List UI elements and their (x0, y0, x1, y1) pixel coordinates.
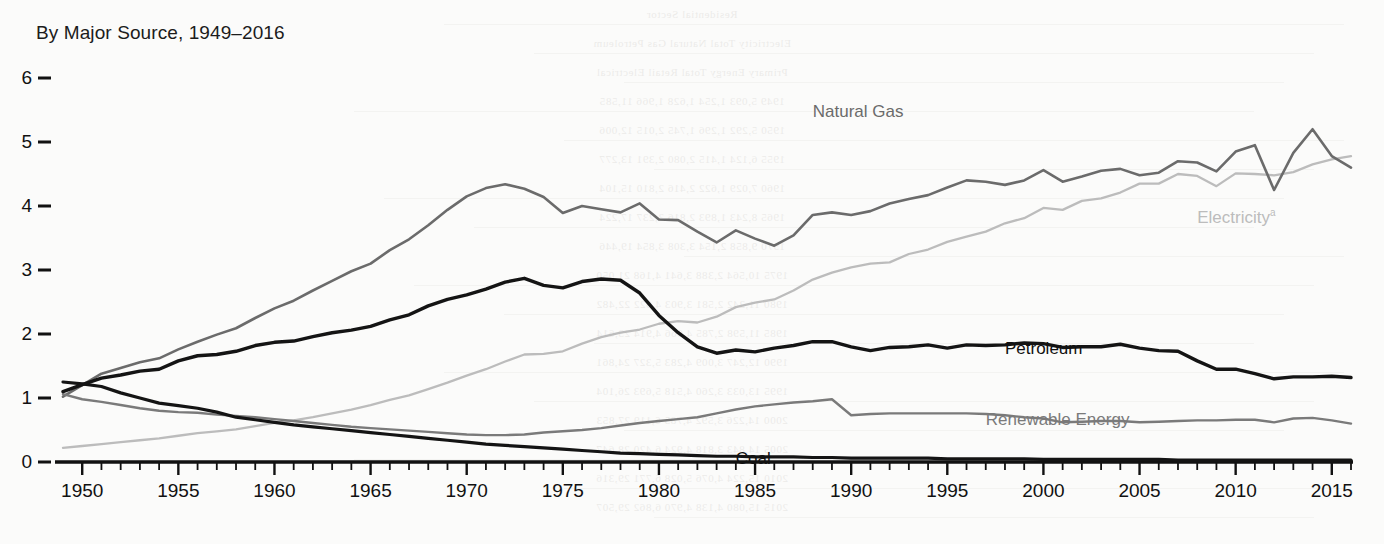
series-label-text: Coal (736, 449, 771, 468)
y-axis-tick-label: 3 (6, 259, 32, 281)
series-line (63, 278, 1351, 391)
x-axis-tick-label: 1960 (253, 480, 295, 502)
y-axis-tick-mark (38, 397, 51, 400)
x-axis-tick-label: 1970 (446, 480, 488, 502)
x-axis-tick-label: 1955 (157, 480, 199, 502)
x-axis-tick-label: 1950 (61, 480, 103, 502)
x-axis-tick-label: 2010 (1215, 480, 1257, 502)
y-axis-tick-label: 1 (6, 387, 32, 409)
series-label-text: Electricity (1197, 208, 1270, 227)
x-axis-tick-label: 1985 (734, 480, 776, 502)
y-axis-tick-label: 5 (6, 131, 32, 153)
series-label-footnote-marker: a (1270, 207, 1276, 218)
x-axis-tick-label: 1965 (349, 480, 391, 502)
y-axis-tick-mark (38, 333, 51, 336)
y-axis-tick-mark (38, 269, 51, 272)
y-axis-tick-label: 4 (6, 195, 32, 217)
series-label-text: Natural Gas (813, 102, 904, 121)
series-label: Electricitya (1197, 207, 1275, 228)
series-line (63, 394, 1351, 435)
chart-page: Residential SectorElectricity Total Natu… (0, 0, 1384, 544)
series-label-text: Renewable Energy (986, 410, 1130, 429)
x-axis-tick-label: 1995 (926, 480, 968, 502)
line-chart-plot: 0123456195019551960196519701975198019851… (0, 0, 1384, 544)
chart-svg (0, 0, 1384, 544)
y-axis-tick-label: 6 (6, 67, 32, 89)
series-label: Petroleum (1005, 339, 1082, 359)
y-axis-tick-mark (38, 77, 51, 80)
x-axis-tick-label: 2005 (1118, 480, 1160, 502)
x-axis-tick-label: 1990 (830, 480, 872, 502)
series-line (63, 129, 1351, 397)
y-axis-tick-label: 0 (6, 451, 32, 473)
x-axis-tick-label: 2015 (1311, 480, 1353, 502)
x-axis-tick-label: 1980 (638, 480, 680, 502)
series-label: Renewable Energy (986, 410, 1130, 430)
y-axis-tick-mark (38, 205, 51, 208)
series-label-text: Petroleum (1005, 339, 1082, 358)
x-axis-tick-label: 1975 (542, 480, 584, 502)
y-axis-tick-mark (38, 141, 51, 144)
y-axis-tick-label: 2 (6, 323, 32, 345)
y-axis-tick-mark (38, 461, 51, 464)
series-label: Natural Gas (813, 102, 904, 122)
x-axis-tick-label: 2000 (1022, 480, 1064, 502)
series-line (63, 156, 1351, 448)
series-label: Coal (736, 449, 771, 469)
